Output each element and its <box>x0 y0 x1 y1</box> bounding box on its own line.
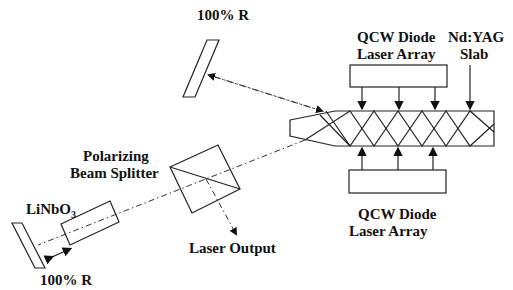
slab-label-2: Slab <box>460 46 488 62</box>
bottom-mirror <box>12 223 45 268</box>
polarizing-beam-splitter <box>170 145 240 213</box>
output-beam <box>206 179 236 234</box>
bottom-diode-array <box>349 170 446 193</box>
zigzag-path-3 <box>326 111 350 146</box>
linbo3-label: LiNbO3 <box>26 201 76 220</box>
top-diode-array <box>350 65 447 87</box>
main-beam <box>38 140 305 245</box>
laser-diagram: 100% R QCW Diode Laser Array Nd:YAG Slab… <box>0 0 513 290</box>
top-diode-label-2: Laser Array <box>357 46 436 62</box>
bottom-mirror-label: 100% R <box>40 272 92 288</box>
laser-output-label: Laser Output <box>189 240 276 256</box>
splitter-label-2: Beam Splitter <box>70 165 159 181</box>
splitter-label-1: Polarizing <box>83 148 149 164</box>
beam-to-top-mirror <box>209 75 322 111</box>
splitter-diagonal <box>170 167 240 189</box>
slab-label-1: Nd:YAG <box>448 29 504 45</box>
gap-double-arrow <box>52 249 70 257</box>
top-mirror-label: 100% R <box>197 7 249 23</box>
bottom-diode-label-1: QCW Diode <box>358 206 437 222</box>
bottom-diode-label-2: Laser Array <box>349 223 428 239</box>
top-diode-label-1: QCW Diode <box>357 29 436 45</box>
beam-from-top-mirror <box>215 77 322 111</box>
top-mirror <box>183 40 219 97</box>
